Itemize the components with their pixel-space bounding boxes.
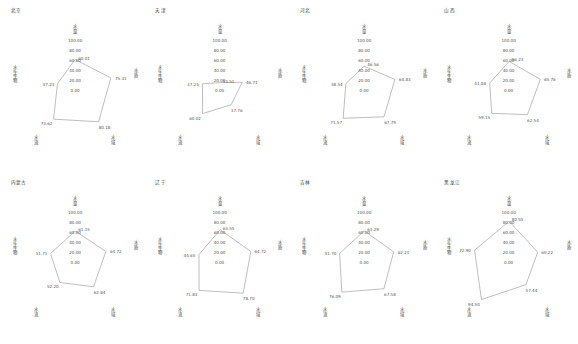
axis-label-0: 水量 (73, 23, 77, 33)
radar-panel: 吉林0.0020.0040.0060.0080.00100.00水量水质水域水流… (289, 172, 434, 344)
axis-label-char: 质 (278, 73, 282, 78)
radial-tick-label: 20.00 (503, 249, 515, 254)
axis-label-char: 域 (400, 140, 404, 145)
axis-label-2: 水域 (111, 307, 115, 317)
radar-spoke (479, 89, 508, 129)
radial-tick-label: 60.00 (214, 58, 226, 63)
axis-label-char: 流 (178, 140, 182, 145)
axis-label-char: 质 (567, 73, 571, 78)
radial-tick-label: 100.00 (357, 210, 371, 215)
axis-label-char: 量 (507, 201, 511, 206)
axis-label-char: 流 (467, 312, 471, 317)
data-value-label: 94.50 (468, 301, 480, 306)
data-value-label: 71.57 (330, 120, 342, 125)
radial-tick-label: 0.00 (504, 87, 513, 92)
data-value-label: 56.23 (512, 57, 524, 62)
axis-label-4: 水生生物 (301, 65, 306, 83)
data-value-label: 61.15 (78, 226, 90, 231)
radial-tick-label: 40.00 (503, 239, 515, 244)
axis-label-char: 质 (278, 245, 282, 250)
axis-label-char: 质 (567, 245, 571, 250)
radial-tick-label: 0.00 (360, 259, 369, 264)
radial-tick-label: 40.00 (69, 239, 81, 244)
data-value-label: 37.23 (43, 81, 55, 86)
axis-label-3: 水流 (34, 135, 38, 145)
axis-label-0: 水量 (362, 195, 366, 205)
radial-tick-label: 20.00 (358, 249, 370, 254)
data-value-label: 60.02 (189, 115, 201, 120)
axis-label-1: 水质 (423, 68, 427, 78)
axis-label-3: 水流 (467, 135, 471, 145)
radar-panel: 河北0.0020.0040.0060.0080.00100.00水量水质水域水流… (289, 0, 434, 172)
data-value-label: 73.62 (41, 121, 53, 126)
radial-tick-label: 20.00 (69, 249, 81, 254)
data-value-label: 67.79 (384, 119, 396, 124)
axis-label-1: 水质 (134, 68, 138, 78)
axis-label-1: 水质 (278, 240, 282, 250)
data-value-label: 64.72 (110, 249, 122, 254)
radial-tick-label: 0.00 (215, 87, 224, 92)
axis-label-char: 质 (423, 73, 427, 78)
radar-spoke (46, 261, 75, 301)
radial-tick-label: 0.00 (504, 259, 513, 264)
axis-label-4: 水生生物 (157, 65, 162, 83)
axis-label-4: 水生生物 (12, 237, 17, 255)
data-value-label: 64.72 (254, 249, 266, 254)
radial-tick-label: 100.00 (501, 210, 515, 215)
axis-label-1: 水质 (567, 68, 571, 78)
radial-tick-label: 100.00 (212, 210, 226, 215)
axis-label-3: 水流 (178, 135, 182, 145)
axis-label-char: 量 (73, 201, 77, 206)
radar-chart-grid: 北京0.0020.0040.0060.0080.00100.00水量水质水域水流… (0, 0, 578, 344)
data-value-label: 38.54 (331, 81, 343, 86)
data-value-label: 80.55 (512, 217, 524, 222)
axis-label-char: 域 (545, 312, 549, 317)
radial-tick-label: 0.00 (360, 87, 369, 92)
axis-label-3: 水流 (34, 307, 38, 317)
data-value-label: 63.55 (223, 225, 235, 230)
data-value-label: 37.76 (231, 107, 243, 112)
axis-label-char: 流 (323, 312, 327, 317)
radial-tick-label: 40.00 (358, 239, 370, 244)
radial-tick-label: 20.00 (503, 77, 515, 82)
axis-label-2: 水域 (545, 307, 549, 317)
radar-series-polygon (54, 60, 111, 122)
radar-series-polygon (343, 66, 395, 118)
axis-label-0: 水量 (218, 23, 222, 33)
radial-tick-label: 80.00 (214, 48, 226, 53)
data-value-label: 60.22 (541, 250, 553, 255)
axis-label-char: 量 (218, 29, 222, 34)
data-value-label: 78.70 (243, 296, 255, 301)
radar-spoke (509, 89, 538, 129)
axis-label-2: 水域 (256, 307, 260, 317)
data-value-label: 61.29 (367, 226, 379, 231)
radial-tick-label: 40.00 (503, 67, 515, 72)
radial-tick-label: 0.00 (215, 259, 224, 264)
radar-panel: 辽宁0.0020.0040.0060.0080.00100.00水量水质水域水流… (145, 172, 290, 344)
radial-tick-label: 80.00 (69, 220, 81, 225)
axis-label-0: 水量 (507, 195, 511, 205)
axis-label-char: 流 (34, 312, 38, 317)
axis-label-4: 水生生物 (12, 65, 17, 83)
radial-tick-label: 0.00 (71, 87, 80, 92)
axis-label-char: 质 (134, 73, 138, 78)
data-value-label: 62.54 (527, 117, 539, 122)
radial-tick-label: 100.00 (68, 38, 82, 43)
data-value-label: 52.20 (47, 284, 59, 289)
axis-label-char: 量 (218, 201, 222, 206)
axis-label-char: 流 (323, 140, 327, 145)
axis-label-3: 水流 (178, 307, 182, 317)
axis-label-4: 水生生物 (446, 237, 451, 255)
data-value-label: 62.84 (94, 289, 106, 294)
axis-label-3: 水流 (323, 135, 327, 145)
axis-label-char: 流 (467, 140, 471, 145)
axis-label-2: 水域 (400, 307, 404, 317)
radial-tick-label: 80.00 (69, 48, 81, 53)
axis-label-1: 水质 (423, 240, 427, 250)
data-value-label: 37.23 (187, 81, 199, 86)
axis-label-1: 水质 (567, 240, 571, 250)
axis-label-0: 水量 (73, 195, 77, 205)
radial-tick-label: 80.00 (214, 220, 226, 225)
axis-label-4: 水生生物 (301, 237, 306, 255)
radial-tick-label: 100.00 (501, 38, 515, 43)
